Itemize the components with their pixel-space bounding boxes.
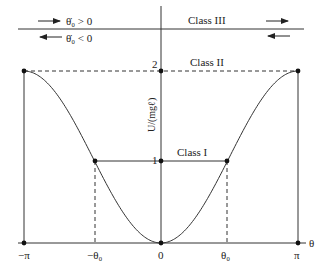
legend-negative: θ̇₀ < 0 (66, 32, 93, 44)
point-pi-base (296, 241, 301, 246)
class-ii-label: Class II (190, 56, 224, 68)
point-neg-pi-base (22, 241, 27, 246)
legend-positive: θ̇₀ > 0 (66, 15, 93, 27)
y-tick-2: 2 (152, 58, 158, 70)
point-neg-theta0 (93, 159, 98, 164)
x-tick-pi: π (294, 249, 300, 261)
point-axis-2 (159, 69, 164, 74)
potential-diagram: θ̇₀ > 0 θ̇₀ < 0 Class III Class II U/(mg… (0, 0, 327, 270)
x-tick-theta0: θ₀ (221, 249, 230, 261)
point-neg-pi-top (22, 69, 27, 74)
point-pi-top (296, 69, 301, 74)
y-axis-label: U/(mgℓ) (146, 98, 158, 132)
class-i-label: Class I (177, 146, 208, 158)
x-tick-neg-theta0: −θ₀ (87, 249, 102, 261)
x-axis-label: θ (309, 237, 314, 249)
point-theta0 (225, 159, 230, 164)
point-axis-1 (159, 159, 164, 164)
point-origin (159, 241, 164, 246)
class-iii-label: Class III (188, 14, 226, 26)
y-tick-1: 1 (152, 154, 158, 166)
x-tick-neg-pi: −π (18, 249, 30, 261)
x-tick-zero: 0 (158, 249, 164, 261)
